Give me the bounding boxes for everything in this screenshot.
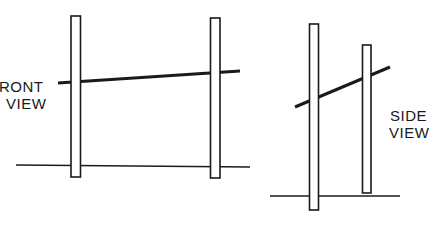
front-view-label-line1: RONT (0, 78, 46, 95)
diagram-canvas (0, 0, 438, 225)
front-view (16, 16, 250, 178)
side-view (270, 24, 400, 210)
side-left-post (310, 24, 319, 210)
front-view-label: RONT VIEW (0, 78, 46, 112)
side-view-label-line2: VIEW (389, 124, 429, 141)
front-right-post (211, 18, 221, 178)
front-left-post (71, 16, 81, 177)
side-right-post (363, 45, 372, 193)
side-view-label-line1: SIDE (389, 107, 429, 124)
side-view-label: SIDE VIEW (389, 107, 429, 141)
front-view-label-line2: VIEW (0, 95, 46, 112)
